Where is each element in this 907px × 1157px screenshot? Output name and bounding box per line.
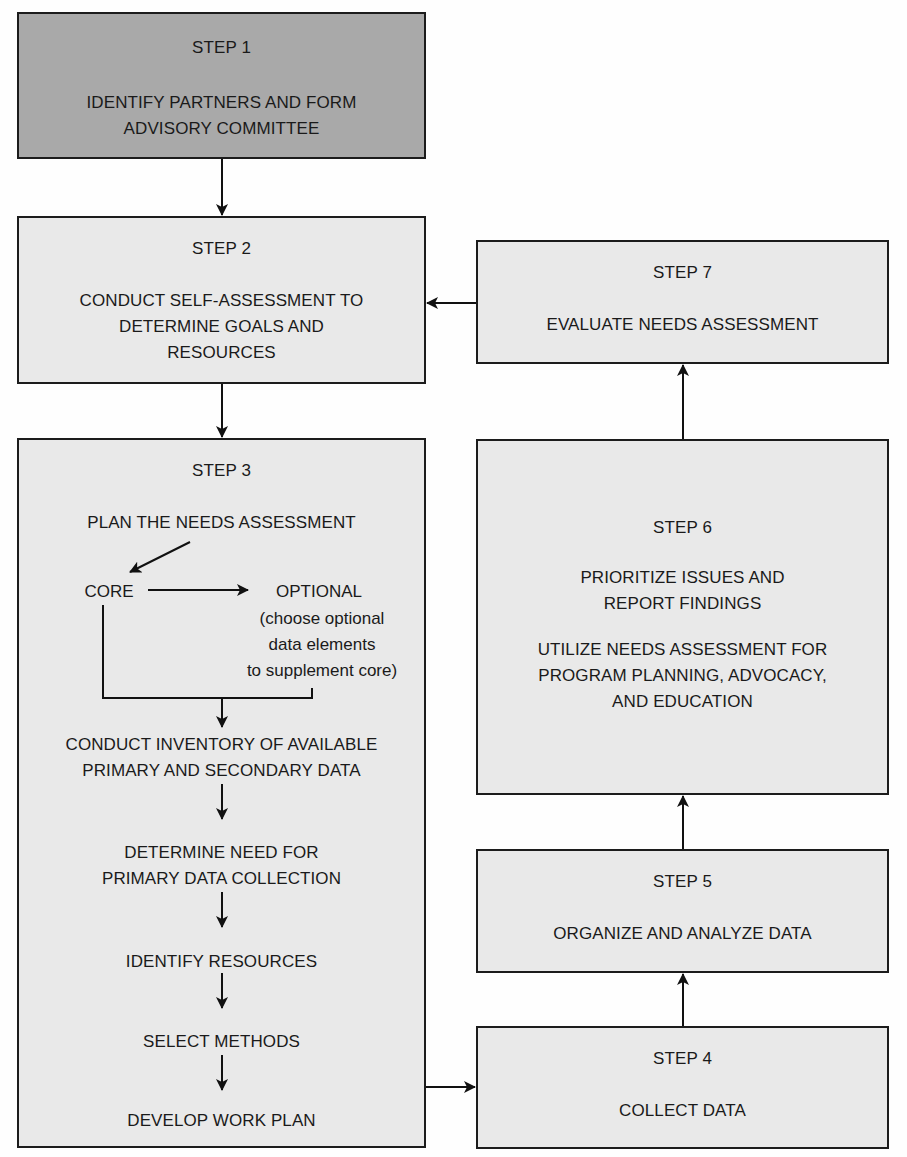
step-3-substep-workplan: DEVELOP WORK PLAN bbox=[19, 1110, 424, 1132]
step-3-substep-methods: SELECT METHODS bbox=[19, 1029, 424, 1055]
step-6-text-utilize: UTILIZE NEEDS ASSESSMENT FOR PROGRAM PLA… bbox=[478, 637, 887, 715]
step-5-text: ORGANIZE AND ANALYZE DATA bbox=[478, 921, 887, 947]
step-1-text: IDENTIFY PARTNERS AND FORM ADVISORY COMM… bbox=[19, 90, 424, 142]
step-7-box: STEP 7 EVALUATE NEEDS ASSESSMENT bbox=[476, 240, 889, 364]
step-3-optional-note: (choose optional data elements to supple… bbox=[217, 606, 427, 684]
step-2-text: CONDUCT SELF-ASSESSMENT TO DETERMINE GOA… bbox=[19, 288, 424, 366]
step-3-optional: OPTIONAL bbox=[254, 579, 384, 605]
step-4-text: COLLECT DATA bbox=[478, 1098, 887, 1124]
step-1-title: STEP 1 bbox=[19, 35, 424, 61]
step-6-text: PRIORITIZE ISSUES AND REPORT FINDINGS bbox=[478, 565, 887, 617]
step-3-core: CORE bbox=[74, 579, 144, 605]
step-4-box: STEP 4 COLLECT DATA bbox=[476, 1026, 889, 1149]
step-6-box: STEP 6 PRIORITIZE ISSUES AND REPORT FIND… bbox=[476, 439, 889, 795]
step-5-box: STEP 5 ORGANIZE AND ANALYZE DATA bbox=[476, 849, 889, 973]
step-2-box: STEP 2 CONDUCT SELF-ASSESSMENT TO DETERM… bbox=[17, 216, 426, 384]
step-3-substep-resources: IDENTIFY RESOURCES bbox=[19, 949, 424, 975]
step-3-box: STEP 3 PLAN THE NEEDS ASSESSMENT CORE OP… bbox=[17, 438, 426, 1148]
step-3-title: STEP 3 bbox=[19, 458, 424, 484]
step-7-text: EVALUATE NEEDS ASSESSMENT bbox=[478, 312, 887, 338]
step-3-substep-need: DETERMINE NEED FOR PRIMARY DATA COLLECTI… bbox=[19, 840, 424, 892]
step-7-title: STEP 7 bbox=[478, 260, 887, 286]
step-5-title: STEP 5 bbox=[478, 869, 887, 895]
step-3-plan: PLAN THE NEEDS ASSESSMENT bbox=[19, 510, 424, 536]
step-6-title: STEP 6 bbox=[478, 515, 887, 541]
step-1-box: STEP 1 IDENTIFY PARTNERS AND FORM ADVISO… bbox=[17, 12, 426, 159]
step-4-title: STEP 4 bbox=[478, 1046, 887, 1072]
step-3-substep-inventory: CONDUCT INVENTORY OF AVAILABLE PRIMARY A… bbox=[19, 732, 424, 784]
step-2-title: STEP 2 bbox=[19, 236, 424, 262]
